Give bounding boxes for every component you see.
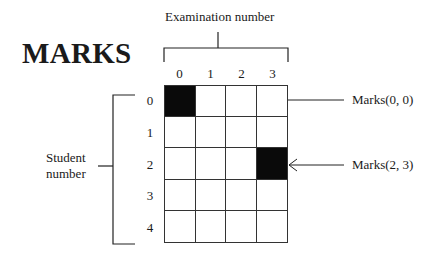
column-number: 3 [257, 66, 288, 82]
cell-3-3 [257, 180, 288, 211]
row-number: 3 [144, 188, 156, 204]
cell-0-2 [226, 86, 257, 117]
row-number: 0 [144, 93, 156, 109]
row-number: 4 [144, 220, 156, 236]
cell-1-0 [165, 117, 196, 148]
column-number: 0 [164, 66, 195, 82]
callout-marks-0-0: Marks(0, 0) [352, 92, 413, 108]
top-bracket [164, 48, 288, 62]
left-bracket [113, 95, 135, 244]
cell-3-0 [165, 180, 196, 211]
cell-1-3 [257, 117, 288, 148]
callout-marks-2-3: Marks(2, 3) [352, 157, 413, 173]
row-number: 2 [144, 157, 156, 173]
cell-2-1 [196, 148, 227, 179]
cell-1-1 [196, 117, 227, 148]
cell-4-0 [165, 211, 196, 242]
cell-2-0 [165, 148, 196, 179]
row-number: 1 [144, 125, 156, 141]
cell-0-0 [165, 86, 196, 117]
column-number: 2 [226, 66, 257, 82]
cell-0-1 [196, 86, 227, 117]
column-number: 1 [195, 66, 226, 82]
cell-3-1 [196, 180, 227, 211]
cell-2-2 [226, 148, 257, 179]
cell-1-2 [226, 117, 257, 148]
cell-0-3 [257, 86, 288, 117]
marks-array-grid [164, 85, 288, 243]
cell-4-3 [257, 211, 288, 242]
cell-4-1 [196, 211, 227, 242]
cell-4-2 [226, 211, 257, 242]
cell-3-2 [226, 180, 257, 211]
cell-2-3 [257, 148, 288, 179]
